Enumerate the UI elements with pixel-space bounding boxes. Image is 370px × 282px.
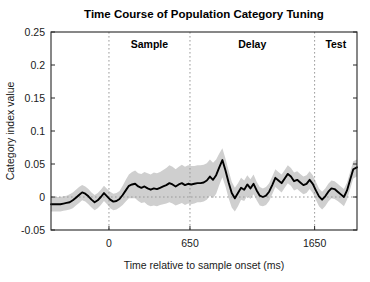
y-tick-label: 0.25 <box>25 26 46 38</box>
epoch-label-test: Test <box>325 38 346 50</box>
category-tuning-line-chart: Time Course of Population Category Tunin… <box>0 0 370 282</box>
y-tick-label: 0 <box>39 191 45 203</box>
x-axis-label: Time relative to sample onset (ms) <box>124 259 285 271</box>
y-tick-label: 0.1 <box>30 125 45 137</box>
epoch-label-delay: Delay <box>238 38 266 50</box>
figure-container: Time Course of Population Category Tunin… <box>0 0 370 282</box>
y-tick-label: -0.05 <box>21 224 45 236</box>
y-axis-label: Category index value <box>4 82 16 181</box>
y-tick-label: 0.15 <box>25 92 46 104</box>
chart-title: Time Course of Population Category Tunin… <box>84 8 324 20</box>
y-tick-label: 0.2 <box>30 59 45 71</box>
x-tick-label: 1650 <box>303 237 327 249</box>
epoch-label-sample: Sample <box>131 38 169 50</box>
x-tick-label: 0 <box>106 237 112 249</box>
y-tick-label: 0.05 <box>25 158 46 170</box>
x-tick-label: 650 <box>181 237 199 249</box>
